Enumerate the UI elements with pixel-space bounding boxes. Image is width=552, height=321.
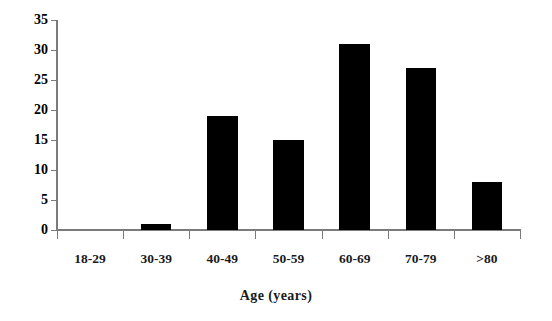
x-axis-tick — [454, 231, 455, 239]
x-axis-tick-label: 50-59 — [273, 252, 305, 266]
x-axis-tick — [57, 231, 58, 239]
x-axis-tick-label: >80 — [476, 252, 497, 266]
x-axis-tick — [388, 231, 389, 239]
x-axis-tick — [520, 231, 521, 239]
x-axis-tick — [322, 231, 323, 239]
x-axis-title: Age (years) — [0, 288, 552, 304]
x-axis-tick-label: 70-79 — [405, 252, 437, 266]
x-axis-tick — [189, 231, 190, 239]
bar — [207, 116, 237, 230]
bars-layer — [57, 20, 520, 230]
y-axis-tick-label: 5 — [16, 193, 48, 207]
x-axis-tick-label: 60-69 — [339, 252, 371, 266]
x-axis-tick-label: 30-39 — [140, 252, 172, 266]
x-axis-tick — [123, 231, 124, 239]
x-axis-tick — [255, 231, 256, 239]
x-axis-tick-label: 40-49 — [207, 252, 239, 266]
bar — [406, 68, 436, 230]
y-axis-tick-label: 25 — [16, 73, 48, 87]
bar-chart-figure: 05101520253035 18-2930-3940-4950-5960-69… — [0, 0, 552, 321]
bar — [273, 140, 303, 230]
bar — [141, 224, 171, 230]
y-axis-tick-label: 15 — [16, 133, 48, 147]
y-axis-tick-label: 10 — [16, 163, 48, 177]
y-axis-tick-label: 30 — [16, 43, 48, 57]
y-axis-tick-label: 35 — [16, 13, 48, 27]
x-axis-tick-label: 18-29 — [74, 252, 106, 266]
y-axis-tick-label: 0 — [16, 223, 48, 237]
bar — [339, 44, 369, 230]
y-axis-tick-label: 20 — [16, 103, 48, 117]
bar — [472, 182, 502, 230]
